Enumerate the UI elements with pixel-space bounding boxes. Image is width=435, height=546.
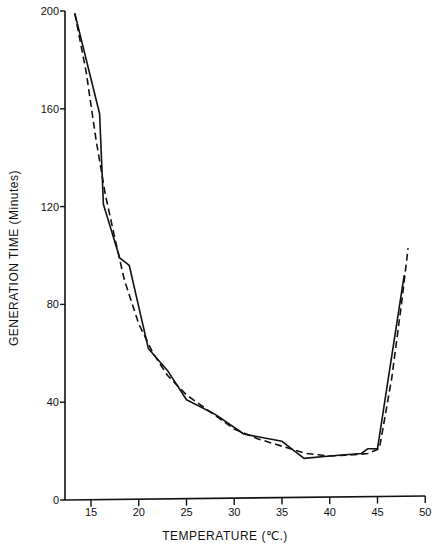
fitted-line [75,13,408,456]
y-tick-label: 40 [47,396,59,408]
y-tick-label: 0 [53,494,59,506]
y-tick-label: 80 [47,298,59,310]
x-axis-line [65,496,425,500]
y-axis-title: GENERATION TIME (Minutes) [7,170,21,346]
x-tick-label: 30 [228,506,240,518]
series-group [75,13,408,458]
y-tick-label: 160 [41,103,59,115]
y-tick-label: 120 [41,201,59,213]
x-tick-label: 40 [324,506,336,518]
generation-time-chart: 040801201602001520253035404550 TEMPERATU… [0,0,435,546]
x-tick-label: 25 [180,506,192,518]
x-axis-title: TEMPERATURE (℃.) [162,529,287,543]
x-tick-label: 45 [371,506,383,518]
observed-line [75,13,404,458]
x-tick-label: 20 [133,506,145,518]
axes: 040801201602001520253035404550 [41,5,432,518]
x-tick-label: 15 [85,506,97,518]
y-tick-label: 200 [41,5,59,17]
x-tick-label: 50 [419,506,431,518]
x-tick-label: 35 [276,506,288,518]
